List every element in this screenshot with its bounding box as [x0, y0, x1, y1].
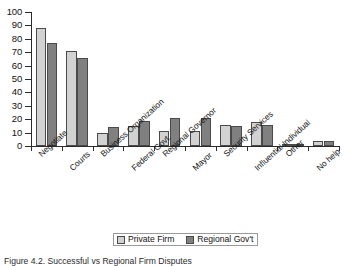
legend-item-private-firm: Private Firm	[117, 235, 174, 244]
bar-regional-gov-t-negotiate	[47, 43, 58, 146]
y-axis-tick-label: 80	[0, 34, 22, 44]
y-axis-tick-label: 20	[0, 114, 22, 124]
y-axis-tick-label: 100	[0, 7, 22, 17]
legend-swatch-regional-govt	[186, 236, 194, 244]
x-axis-label-mayor: Mayor	[191, 151, 214, 173]
plot-area	[31, 12, 339, 146]
x-axis-label-courts: Courts	[68, 150, 92, 173]
legend-item-regional-govt: Regional Gov't	[186, 235, 253, 244]
legend-label-regional-govt: Regional Gov't	[197, 235, 253, 244]
x-axis-label-no-help: No help	[315, 147, 342, 173]
bar-regional-gov-t-courts	[77, 58, 88, 146]
x-axis-tick	[123, 147, 124, 151]
y-axis-tick-label: 0	[0, 141, 22, 151]
x-axis-tick	[185, 147, 186, 151]
x-axis-tick	[31, 147, 32, 151]
bar-regional-gov-t-no-help	[324, 141, 335, 146]
bar-private-firm-courts	[66, 51, 77, 146]
legend-swatch-private-firm	[117, 236, 125, 244]
x-axis-tick	[308, 147, 309, 151]
y-axis-tick-label: 40	[0, 87, 22, 97]
figure-caption: Figure 4.2. Successful vs Regional Firm …	[4, 256, 192, 266]
y-axis-tick-label: 60	[0, 61, 22, 71]
y-axis-tick-label: 90	[0, 20, 22, 30]
bar-regional-gov-t-influential-individual	[262, 125, 273, 146]
y-axis-tick-label: 70	[0, 47, 22, 57]
legend-label-private-firm: Private Firm	[128, 235, 174, 244]
x-axis-tick	[93, 147, 94, 151]
y-axis-tick-label: 30	[0, 101, 22, 111]
y-axis-tick-label: 50	[0, 74, 22, 84]
chart-legend: Private Firm Regional Gov't	[113, 233, 258, 246]
x-axis-tick	[247, 147, 248, 151]
bar-private-firm-no-help	[313, 141, 324, 146]
bar-private-firm-negotiate	[36, 28, 47, 146]
x-axis-tick	[216, 147, 217, 151]
x-axis-tick	[62, 147, 63, 151]
y-axis-tick-label: 10	[0, 128, 22, 138]
